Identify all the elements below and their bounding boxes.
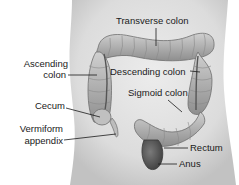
cecum — [93, 109, 111, 125]
diagram-canvas — [0, 0, 239, 185]
label-anus: Anus — [179, 159, 201, 169]
label-vermiform-appendix-line2: appendix — [10, 136, 63, 146]
label-rectum: Rectum — [190, 143, 223, 153]
label-sigmoid-colon: Sigmoid colon — [128, 88, 188, 98]
label-vermiform-appendix-line1: Vermiform — [10, 124, 63, 134]
label-cecum: Cecum — [20, 101, 65, 111]
label-descending-colon: Descending colon — [110, 67, 186, 77]
label-ascending-colon-line2: colon — [20, 70, 66, 80]
label-ascending-colon-line1: Ascending — [20, 59, 68, 69]
label-transverse-colon: Transverse colon — [116, 16, 189, 26]
anatomy-diagram: Transverse colon Ascending colon Descend… — [0, 0, 239, 185]
